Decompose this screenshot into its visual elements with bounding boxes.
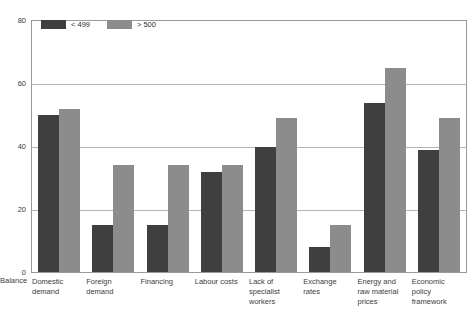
- bar-series-0: [255, 147, 276, 273]
- bar-series-0: [364, 103, 385, 272]
- bar-group: [86, 21, 140, 272]
- bar-group: [141, 21, 195, 272]
- bar-series-0: [201, 172, 222, 272]
- y-tick-80: 80: [0, 17, 26, 25]
- bar-series-0: [92, 225, 113, 272]
- bar-group: [195, 21, 249, 272]
- bar-series-1: [113, 165, 134, 272]
- x-label-foreign-demand: Foreign demand: [86, 277, 140, 307]
- bar-series-1: [59, 109, 80, 272]
- bar-series-1: [439, 118, 460, 272]
- bars-layer: [32, 21, 466, 272]
- bar-series-1: [330, 225, 351, 272]
- bar-series-1: [385, 68, 406, 272]
- bar-group: [32, 21, 86, 272]
- x-axis-labels: Domestic demand Foreign demand Financing…: [32, 277, 466, 307]
- bar-group: [412, 21, 466, 272]
- bar-series-1: [222, 165, 243, 272]
- bar-chart: 80 60 40 20 0 Balance < 499 > 500: [0, 0, 473, 312]
- y-axis-title: Balance: [0, 277, 27, 285]
- x-label-exchange-rates: Exchange rates: [303, 277, 357, 307]
- x-label-labour-costs: Labour costs: [195, 277, 249, 307]
- bar-series-0: [147, 225, 168, 272]
- bar-group: [249, 21, 303, 272]
- x-label-economic-policy-framework: Economic policy framework: [412, 277, 466, 307]
- y-tick-60: 60: [0, 80, 26, 88]
- bar-series-1: [168, 165, 189, 272]
- y-tick-40: 40: [0, 143, 26, 151]
- x-label-domestic-demand: Domestic demand: [32, 277, 86, 307]
- bar-series-1: [276, 118, 297, 272]
- y-tick-20: 20: [0, 206, 26, 214]
- bar-series-0: [418, 150, 439, 272]
- x-label-lack-of-specialist-workers: Lack of specialist workers: [249, 277, 303, 307]
- bar-series-0: [309, 247, 330, 272]
- x-label-financing: Financing: [141, 277, 195, 307]
- x-label-energy-and-raw-material-prices: Energy and raw material prices: [358, 277, 412, 307]
- bar-group: [303, 21, 357, 272]
- bar-series-0: [38, 115, 59, 272]
- bar-group: [358, 21, 412, 272]
